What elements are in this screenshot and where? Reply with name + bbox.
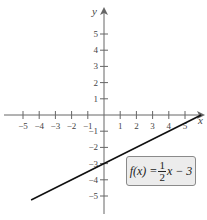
x-tick-label: 2 <box>134 121 139 131</box>
x-tick-label: 3 <box>150 121 155 131</box>
y-axis-label: y <box>91 5 97 17</box>
equation-rhs: x − 3 <box>167 164 192 179</box>
y-tick-label: 4 <box>94 45 99 55</box>
y-tick-label: −1 <box>88 126 98 136</box>
equation-lhs: f(x) = <box>130 164 158 179</box>
fraction-numerator: 1 <box>158 160 166 172</box>
equation-label: f(x) = 1 2 x − 3 <box>126 156 196 186</box>
y-tick-label: 3 <box>94 61 99 71</box>
y-tick-label: 5 <box>94 29 99 39</box>
y-tick-label: 1 <box>94 94 99 104</box>
x-tick-label: −2 <box>67 121 77 131</box>
y-tick-label: −5 <box>88 191 98 201</box>
x-tick-label: −3 <box>51 121 61 131</box>
fraction-denominator: 2 <box>159 172 165 183</box>
x-tick-label: 1 <box>118 121 123 131</box>
fraction: 1 2 <box>158 160 166 183</box>
y-tick-label: −2 <box>88 142 98 152</box>
x-tick-label: −5 <box>18 121 28 131</box>
y-tick-label: 2 <box>94 78 99 88</box>
x-tick-label: −4 <box>34 121 44 131</box>
coordinate-plane: −5−4−3−2−112345−5−4−3−2−112345 x y <box>0 0 207 220</box>
y-tick-label: −4 <box>88 175 98 185</box>
